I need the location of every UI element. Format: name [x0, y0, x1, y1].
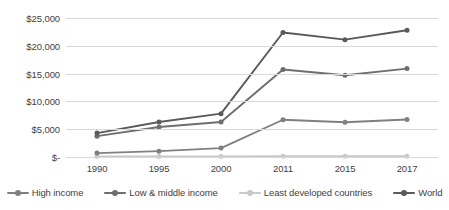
- y-tick-label: $25,000: [26, 13, 60, 24]
- x-tick-label: 2000: [211, 163, 232, 174]
- legend-marker-icon: [393, 188, 415, 197]
- legend-label: Least developed countries: [264, 188, 372, 198]
- y-tick-label: $-: [52, 152, 60, 163]
- data-point: [343, 120, 348, 125]
- gridline: [66, 74, 438, 75]
- plot-area: [66, 18, 438, 157]
- legend-item[interactable]: Least developed countries: [239, 188, 372, 198]
- data-point: [157, 149, 162, 154]
- x-tick-label: 2015: [335, 163, 356, 174]
- data-point: [95, 131, 100, 136]
- series-high-income: [95, 117, 410, 156]
- y-tick-label: $20,000: [26, 40, 60, 51]
- gridline: [66, 101, 438, 102]
- legend-marker-icon: [239, 188, 261, 197]
- data-point: [281, 117, 286, 122]
- data-point: [95, 151, 100, 156]
- data-point: [343, 37, 348, 42]
- legend-label: High income: [32, 188, 84, 198]
- y-axis: $-$5,000$10,000$15,000$20,000$25,000: [0, 0, 60, 210]
- data-point: [281, 30, 286, 35]
- chart-legend: High incomeLow & middle incomeLeast deve…: [0, 188, 449, 198]
- x-tick-label: 1990: [87, 163, 108, 174]
- data-point: [405, 66, 410, 71]
- data-point: [157, 119, 162, 124]
- series-layer: [66, 18, 438, 157]
- line-chart: $-$5,000$10,000$15,000$20,000$25,000 199…: [0, 0, 449, 210]
- legend-marker-icon: [104, 188, 126, 197]
- x-axis: 199019952000201120152017: [0, 163, 449, 177]
- legend-marker-icon: [7, 188, 29, 197]
- x-tick-label: 1995: [149, 163, 170, 174]
- legend-item[interactable]: Low & middle income: [104, 188, 217, 198]
- legend-label: Low & middle income: [129, 188, 217, 198]
- data-point: [219, 111, 224, 116]
- data-point: [281, 67, 286, 72]
- y-tick-label: $5,000: [32, 124, 60, 135]
- y-tick-label: $15,000: [26, 68, 60, 79]
- x-tick-label: 2011: [273, 163, 293, 174]
- x-tick-label: 2017: [397, 163, 418, 174]
- gridline: [66, 18, 438, 19]
- gridline: [66, 46, 438, 47]
- data-point: [405, 117, 410, 122]
- data-point: [219, 119, 224, 124]
- y-tick-label: $10,000: [26, 96, 60, 107]
- gridline: [66, 129, 438, 130]
- legend-label: World: [418, 188, 442, 198]
- legend-item[interactable]: World: [393, 188, 442, 198]
- series-world: [95, 28, 410, 136]
- gridline: [66, 157, 438, 158]
- data-point: [405, 28, 410, 33]
- legend-item[interactable]: High income: [7, 188, 84, 198]
- data-point: [219, 146, 224, 151]
